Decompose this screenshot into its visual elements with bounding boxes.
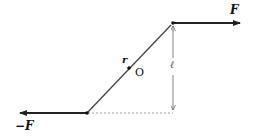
origin-label: O: [135, 67, 144, 78]
position-vector-label: r: [122, 55, 127, 65]
bottom-point: [85, 111, 89, 115]
force-left-label: −F: [15, 120, 34, 132]
top-point: [171, 21, 175, 25]
diagram-drawing: [0, 0, 253, 139]
separation-label: ℓ: [170, 60, 174, 70]
force-right-label: F: [230, 4, 239, 16]
couple-diagram: F −F r O ℓ: [0, 0, 253, 139]
origin-point: [127, 66, 131, 70]
